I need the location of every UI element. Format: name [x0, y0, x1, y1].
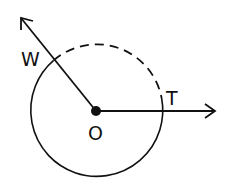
center-point-o	[91, 106, 101, 116]
dashed-arc-wt	[54, 44, 162, 98]
diagram-canvas: W T O	[0, 0, 225, 192]
solid-arc	[31, 60, 163, 176]
label-t: T	[165, 87, 178, 109]
label-o: O	[88, 122, 103, 144]
label-w: W	[21, 48, 40, 70]
